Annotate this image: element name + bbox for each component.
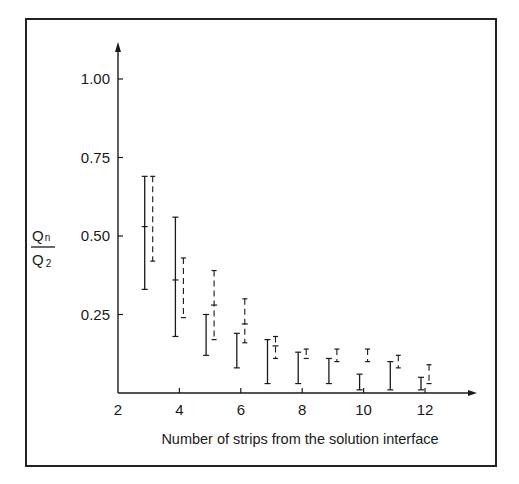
solid-error-bar [203,315,209,356]
solid-error-bar [357,374,363,390]
x-tick-label: 12 [417,401,434,418]
dashed-error-bar [273,336,279,358]
x-tick-label: 8 [298,401,306,418]
y-tick-label: 0.75 [81,149,110,166]
dashed-error-bar [396,355,401,368]
solid-error-bar [326,358,332,383]
x-axis-title: Number of strips from the solution inter… [161,431,438,447]
y-tick-label: 0.50 [81,227,110,244]
dashed-error-bar [242,299,248,343]
solid-error-bar [172,217,178,336]
error-bars [142,176,432,390]
axes: 0.250.500.751.0024681012 [81,42,477,418]
x-tick-label: 4 [175,401,183,418]
x-tick-label: 2 [114,401,122,418]
y-axis-title: Qn Q2 [31,227,55,269]
y-axis-title-numerator: Qn [32,227,50,244]
y-axis-arrow-icon [115,42,121,52]
x-tick-label: 6 [237,401,245,418]
x-axis-arrow-icon [468,390,477,396]
dashed-error-bar [304,349,309,358]
y-axis-title-denominator: Q2 [32,251,52,269]
y-tick-label: 0.25 [81,306,110,323]
dashed-error-bar [365,349,370,362]
solid-error-bar [418,377,424,390]
solid-error-bar [265,340,271,384]
dashed-error-bar [211,271,217,340]
axis-labels: Number of strips from the solution inter… [31,227,439,447]
solid-error-bar [295,352,301,383]
solid-error-bar [234,333,240,368]
errorbar-chart: 0.250.500.751.0024681012 Number of strip… [0,0,519,484]
dashed-error-bar [150,176,155,261]
dashed-error-bar [181,258,186,318]
dashed-error-bar [427,365,432,384]
solid-error-bar [142,176,148,289]
dashed-error-bar [334,349,339,362]
x-tick-label: 10 [355,401,372,418]
solid-error-bar [387,362,393,390]
y-tick-label: 1.00 [81,70,110,87]
